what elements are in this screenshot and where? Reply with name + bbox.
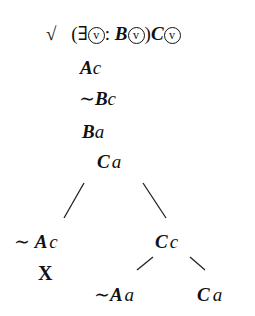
circled-variable: v bbox=[88, 27, 105, 44]
sub-branch-line-left bbox=[137, 257, 153, 270]
right-branch-node: Cc bbox=[155, 232, 178, 251]
tree-line-3: Ba bbox=[82, 122, 104, 141]
exists-quantifier: ∃ bbox=[78, 23, 88, 44]
circled-variable: v bbox=[164, 27, 181, 44]
closed-branch-mark: X bbox=[38, 263, 52, 283]
tree-line-2: ∼Bc bbox=[79, 89, 116, 108]
circled-variable: v bbox=[128, 27, 145, 44]
right-sub-branch-right: Ca bbox=[197, 285, 222, 304]
sub-branch-line-right bbox=[190, 257, 205, 270]
branch-line-right bbox=[143, 183, 166, 218]
premise-line: √ (∃v: Bv)Cv bbox=[46, 24, 181, 44]
left-branch-node: ∼ Ac bbox=[14, 232, 58, 251]
check-mark: √ bbox=[46, 23, 56, 44]
right-sub-branch-left: ∼Aa bbox=[94, 285, 134, 304]
branch-line-left bbox=[64, 183, 84, 218]
tree-line-4: Ca bbox=[97, 152, 121, 171]
tree-line-1: Ac bbox=[80, 58, 101, 77]
